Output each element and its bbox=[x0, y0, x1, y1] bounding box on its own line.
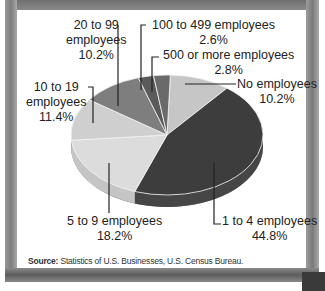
label-5-to-9: 5 to 9 employees 18.2% bbox=[67, 214, 162, 244]
label-20-to-99: 20 to 99 employees 10.2% bbox=[66, 18, 126, 63]
label-10-to-19: 10 to 19 employees 11.4% bbox=[26, 80, 86, 125]
source-note: Source: Statistics of U.S. Businesses, U… bbox=[28, 256, 243, 266]
label-1-to-4: 1 to 4 employees 44.8% bbox=[222, 214, 317, 244]
label-no-employees: No employees 10.2% bbox=[237, 77, 317, 107]
label-100-to-499: 100 to 499 employees 2.6% bbox=[152, 18, 275, 48]
label-500-plus: 500 or more employees 2.8% bbox=[163, 48, 294, 78]
